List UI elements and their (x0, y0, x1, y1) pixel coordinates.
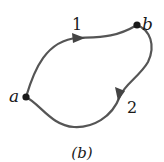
point-b-label: b (142, 14, 153, 34)
point-a (22, 93, 29, 100)
path-1-curve (26, 25, 137, 97)
path-2-label: 2 (127, 98, 137, 117)
path-diagram: a b 1 2 (b) (0, 0, 164, 162)
caption: (b) (71, 144, 92, 162)
path-1-label: 1 (72, 15, 82, 34)
point-a-label: a (9, 86, 19, 106)
point-b (133, 21, 140, 28)
arrow-path-1-icon (72, 33, 85, 43)
